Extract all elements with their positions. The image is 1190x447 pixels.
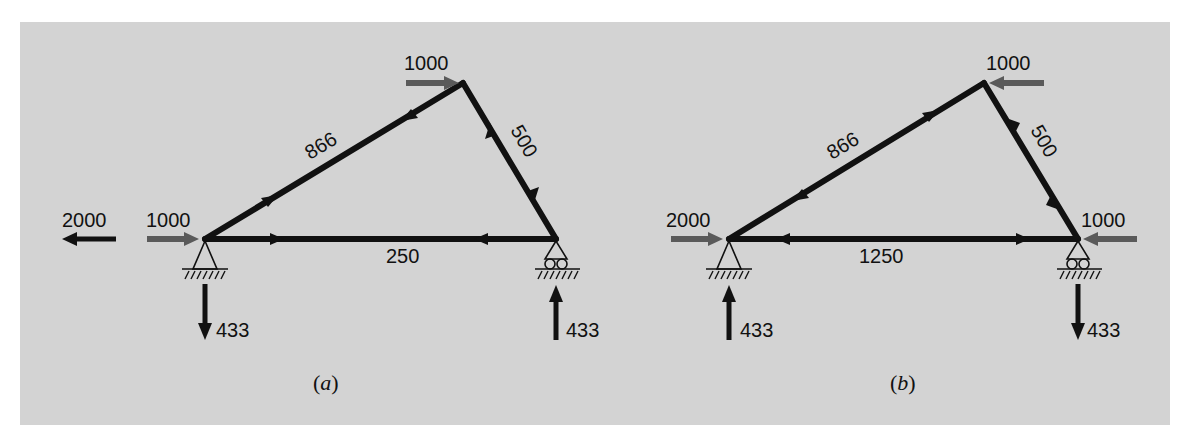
reaction-label-left-vertical: 433 [740, 319, 773, 341]
load-label-apex: 1000 [986, 52, 1031, 74]
reaction-label-left-horizontal: 2000 [62, 209, 107, 231]
truss-figure: 866 500 250 [0, 0, 1190, 447]
load-label-right-node: 1000 [1081, 209, 1126, 231]
reaction-label-right-vertical: 433 [1087, 319, 1120, 341]
reaction-label-right-vertical: 433 [566, 319, 599, 341]
load-label-apex: 1000 [404, 52, 449, 74]
load-label-left-node: 1000 [146, 209, 191, 231]
member-label-bottom-chord: 250 [386, 245, 419, 267]
member-label-bottom-chord: 1250 [859, 245, 904, 267]
load-label-left-node: 2000 [666, 209, 711, 231]
caption-a: (a) [313, 370, 339, 395]
reaction-label-left-vertical: 433 [216, 319, 249, 341]
caption-b: (b) [890, 370, 916, 395]
